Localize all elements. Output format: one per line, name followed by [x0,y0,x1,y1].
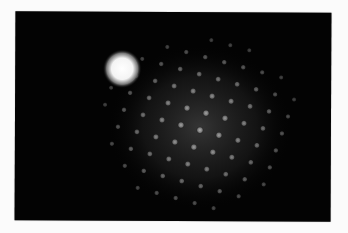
diffraction-spot [183,49,189,55]
diffraction-spot [165,44,170,49]
diffraction-spot [247,48,252,53]
diffraction-spot [261,182,267,188]
diffraction-spot [135,185,141,191]
diffraction-spot [192,200,198,206]
diffraction-spot [196,71,202,77]
diffraction-spot [160,173,166,179]
diffraction-spot [236,193,242,199]
diffraction-pattern [15,11,332,221]
diffraction-spot [241,120,248,127]
diffraction-spot [202,54,208,60]
diffraction-spot [278,75,283,80]
diffraction-spot [215,131,222,138]
diffraction-spot [223,171,229,177]
diffraction-spot [179,178,185,184]
diffraction-spot [165,100,172,107]
diffraction-spot [109,141,115,147]
diffraction-spot [279,131,285,137]
diffraction-spot [247,103,254,110]
diffraction-spot [267,165,273,171]
central-beam-spot [103,49,142,88]
diffraction-spot [266,108,272,114]
diffraction-spot [228,98,235,105]
diffraction-spot [158,116,165,123]
diffraction-spot [140,112,146,118]
diffraction-spot [122,163,128,169]
diffraction-spot [215,76,222,83]
diffraction-spot [209,93,216,100]
diffraction-photo [15,11,332,221]
diffraction-spot [190,88,197,95]
diffraction-spot [202,109,210,117]
diffraction-spot [158,61,164,67]
diffraction-spot [217,188,223,194]
diffraction-spot [146,95,152,101]
diffraction-spot [259,70,265,76]
diffraction-spot [260,125,266,131]
diffraction-spot [196,126,204,134]
diffraction-spot [184,161,191,168]
diffraction-spot [253,86,259,92]
diffraction-spot [228,43,233,48]
diffraction-spot [115,124,121,130]
diffraction-spot [165,156,172,163]
diffraction-spot [240,64,246,70]
diffraction-spot [291,97,296,102]
diffraction-spot [183,104,190,111]
diffraction-spot [141,168,147,174]
diffraction-spot [152,78,158,84]
diffraction-spot [134,129,140,135]
diffraction-spot [102,102,107,107]
diffraction-spot [198,183,204,189]
diffraction-spot [211,205,217,211]
diffraction-spot [254,142,260,148]
diffraction-spot [190,143,197,150]
diffraction-spot [171,83,178,90]
diffraction-spot [221,115,228,122]
diffraction-spot [147,151,153,157]
diffraction-spot [285,114,291,120]
diffraction-spot [248,159,254,165]
diffraction-spot [242,176,248,182]
diffraction-spot [121,107,127,113]
diffraction-spot [234,137,241,144]
diffraction-spot [203,166,210,173]
diffraction-spot [209,37,214,42]
diffraction-spot [209,149,216,156]
diffraction-spot [153,134,160,141]
diffraction-spot [154,190,160,196]
diffraction-spot [273,148,279,154]
diffraction-spot [177,121,185,129]
diffraction-spot [272,92,278,98]
diffraction-spot [127,90,133,96]
diffraction-spot [128,146,134,152]
diffraction-spot [177,66,183,72]
diffraction-spot [234,81,240,87]
diffraction-spot [228,154,235,161]
diffraction-spot [173,195,179,201]
diffraction-spot [221,59,227,65]
diffraction-spot [140,56,145,61]
diffraction-spot [171,138,178,145]
